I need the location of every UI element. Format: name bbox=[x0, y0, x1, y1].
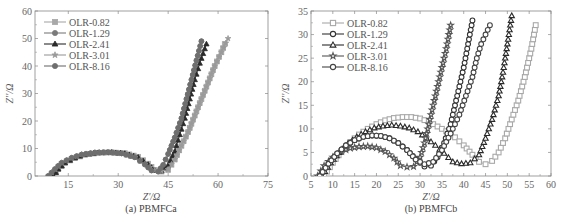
x-tick-label: 20 bbox=[371, 179, 381, 190]
chart-caption: (a) PBMFCa bbox=[125, 203, 177, 215]
y-tick-label: 5 bbox=[303, 147, 308, 158]
legend-label: OLR-3.01 bbox=[347, 51, 388, 62]
legend-item: OLR-3.01 bbox=[44, 50, 110, 61]
x-tick-label: 30 bbox=[415, 179, 425, 190]
y-axis: 0102030405060 bbox=[22, 6, 268, 182]
x-tick-label: 30 bbox=[113, 179, 123, 190]
y-tick-label: 60 bbox=[22, 6, 32, 17]
y-tick-label: 50 bbox=[22, 33, 32, 44]
legend-item: OLR-0.82 bbox=[44, 17, 110, 28]
y-tick-label: 20 bbox=[22, 116, 32, 127]
legend-label: OLR-3.01 bbox=[69, 50, 110, 61]
legend-label: OLR-8.16 bbox=[69, 61, 110, 72]
legend-label: OLR-0.82 bbox=[347, 18, 388, 29]
y-tick-label: 25 bbox=[298, 53, 308, 64]
legend-label: OLR-2.41 bbox=[347, 40, 388, 51]
legend-label: OLR-1.29 bbox=[347, 29, 388, 40]
legend: OLR-0.82OLR-1.29OLR-2.41OLR-3.01OLR-8.16 bbox=[322, 18, 388, 73]
legend-label: OLR-1.29 bbox=[69, 28, 110, 39]
legend-item: OLR-8.16 bbox=[322, 62, 388, 73]
y-tick-label: 35 bbox=[298, 6, 308, 17]
figure-canvas: 15304560750102030405060Z'/ΩZ''/Ω(a) PBMF… bbox=[0, 0, 563, 221]
x-tick-label: 5 bbox=[309, 179, 314, 190]
x-tick-label: 50 bbox=[502, 179, 512, 190]
legend-label: OLR-8.16 bbox=[347, 62, 388, 73]
y-tick-label: 30 bbox=[22, 88, 32, 99]
x-axis-label: Z'/Ω bbox=[422, 191, 440, 202]
legend: OLR-0.82OLR-1.29OLR-2.41OLR-3.01OLR-8.16 bbox=[44, 17, 110, 72]
legend-item: OLR-0.82 bbox=[322, 18, 388, 29]
y-tick-label: 20 bbox=[298, 76, 308, 87]
x-tick-label: 45 bbox=[163, 179, 173, 190]
y-tick-label: 40 bbox=[22, 61, 32, 72]
x-tick-label: 60 bbox=[213, 179, 223, 190]
legend-item: OLR-3.01 bbox=[322, 51, 388, 62]
y-tick-label: 10 bbox=[22, 143, 32, 154]
x-tick-label: 35 bbox=[437, 179, 447, 190]
legend-label: OLR-2.41 bbox=[69, 39, 110, 50]
legend-item: OLR-2.41 bbox=[44, 39, 110, 50]
x-tick-label: 15 bbox=[63, 179, 73, 190]
y-axis-label: Z''/Ω bbox=[280, 84, 291, 104]
x-tick-label: 40 bbox=[459, 179, 469, 190]
legend-item: OLR-2.41 bbox=[322, 40, 388, 51]
legend-item: OLR-8.16 bbox=[44, 61, 110, 72]
y-axis-label: Z''/Ω bbox=[4, 84, 15, 104]
y-tick-label: 0 bbox=[303, 171, 308, 182]
y-tick-label: 10 bbox=[298, 123, 308, 134]
chart-b: 5101520253035404550556005101520253035Z'/… bbox=[280, 6, 556, 216]
legend-item: OLR-1.29 bbox=[44, 28, 110, 39]
x-tick-label: 10 bbox=[328, 179, 338, 190]
y-tick-label: 0 bbox=[27, 171, 32, 182]
chart-a: 15304560750102030405060Z'/ΩZ''/Ω(a) PBMF… bbox=[4, 6, 273, 216]
y-tick-label: 30 bbox=[298, 29, 308, 40]
chart-caption: (b) PBMFCb bbox=[405, 203, 458, 215]
x-axis-label: Z'/Ω bbox=[143, 191, 161, 202]
legend-item: OLR-1.29 bbox=[322, 29, 388, 40]
x-tick-label: 15 bbox=[350, 179, 360, 190]
legend-label: OLR-0.82 bbox=[69, 17, 110, 28]
x-tick-label: 55 bbox=[524, 179, 534, 190]
x-tick-label: 75 bbox=[263, 179, 273, 190]
x-tick-label: 45 bbox=[481, 179, 491, 190]
x-tick-label: 25 bbox=[393, 179, 403, 190]
x-tick-label: 60 bbox=[546, 179, 556, 190]
y-tick-label: 15 bbox=[298, 100, 308, 111]
